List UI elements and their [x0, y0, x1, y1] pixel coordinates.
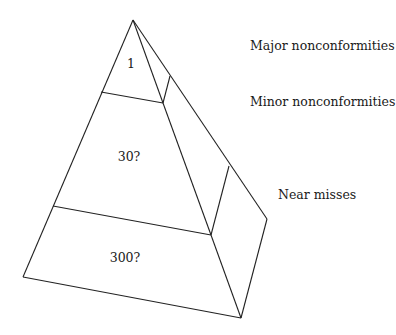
pyramid-back-edge [133, 20, 267, 219]
tier-3-label: Near misses [278, 187, 356, 202]
tier-1-value: 1 [127, 56, 135, 71]
pyramid-diagram: 1 30? 300? Major nonconformities Minor n… [0, 0, 396, 335]
divider-top [101, 92, 163, 103]
tier-2-label: Minor nonconformities [250, 94, 395, 109]
pyramid-front-edge-top [133, 20, 163, 103]
tier-1-label: Major nonconformities [250, 38, 395, 53]
pyramid-base-edge [23, 277, 241, 318]
tier-3-value: 300? [110, 250, 141, 265]
pyramid-left-edge [23, 20, 133, 277]
divider-middle [53, 206, 211, 235]
tier-2-value: 30? [118, 149, 141, 164]
